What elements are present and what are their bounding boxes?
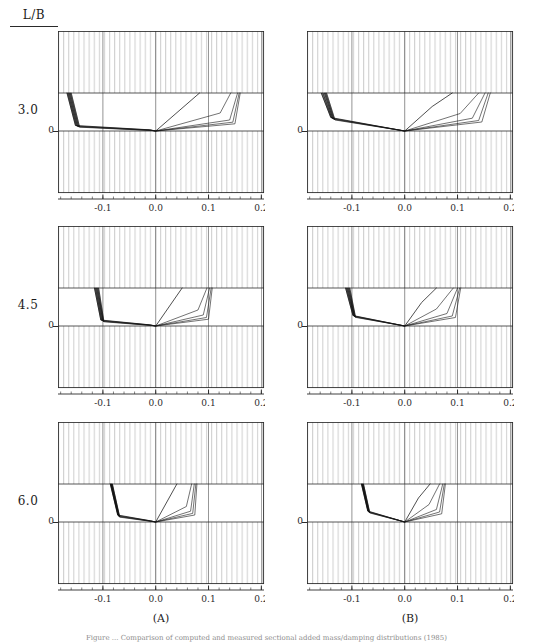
row-label-lb-4-5: 4.5 <box>2 298 54 312</box>
x-tick-label: 0.2 <box>254 398 265 408</box>
x-tick-label: 0.0 <box>398 398 413 408</box>
y-zero-tick <box>53 326 58 327</box>
x-tick-label: -0.1 <box>343 203 360 213</box>
x-tick-label: -0.1 <box>343 594 360 604</box>
y-zero-label: 0 <box>291 516 303 526</box>
curve-4 <box>98 288 212 326</box>
row-header-label: L/B <box>12 8 56 22</box>
y-zero-tick <box>302 326 307 327</box>
y-zero-tick <box>53 131 58 132</box>
x-tick-label: 0.1 <box>201 203 215 213</box>
x-tick-label: 0.2 <box>254 594 265 604</box>
curve-5 <box>350 288 461 326</box>
curve-4 <box>70 93 239 131</box>
x-tick-label: 0.2 <box>254 203 265 213</box>
curve-1 <box>321 93 452 131</box>
y-zero-label: 0 <box>42 516 54 526</box>
x-tick-label: -0.1 <box>94 594 111 604</box>
x-tick-label: -0.1 <box>94 398 111 408</box>
curve-4 <box>363 484 444 522</box>
row-header-rule <box>10 26 58 27</box>
column-caption-a: (A) <box>131 612 191 625</box>
plot-panel-a-6.0: -0.10.00.10.2 <box>58 422 265 608</box>
x-tick-label: 0.0 <box>149 203 164 213</box>
curve-3 <box>348 288 458 326</box>
curve-1 <box>67 93 200 131</box>
curve-2 <box>362 484 440 522</box>
plot-panel-b-3.0: -0.10.00.10.2 <box>307 31 514 217</box>
y-zero-label: 0 <box>291 125 303 135</box>
curve-4 <box>349 288 460 326</box>
row-label-lb-6-0: 6.0 <box>2 494 54 508</box>
x-tick-label: -0.1 <box>343 398 360 408</box>
plot-panel-b-6.0: -0.10.00.10.2 <box>307 422 514 608</box>
curve-5 <box>327 93 491 131</box>
y-zero-tick <box>53 522 58 523</box>
y-zero-tick <box>302 131 307 132</box>
x-tick-label: 0.0 <box>398 594 413 604</box>
x-tick-label: 0.1 <box>450 398 464 408</box>
x-tick-label: 0.0 <box>149 398 164 408</box>
x-tick-label: -0.1 <box>94 203 111 213</box>
x-tick-label: 0.1 <box>450 203 464 213</box>
curve-3 <box>97 288 210 326</box>
curve-3 <box>69 93 238 131</box>
row-label-lb-3-0: 3.0 <box>2 103 54 117</box>
x-tick-label: 0.1 <box>201 594 215 604</box>
x-tick-label: 0.2 <box>503 398 514 408</box>
x-tick-label: 0.2 <box>503 203 514 213</box>
plot-panel-a-3.0: -0.10.00.10.2 <box>58 31 265 217</box>
x-tick-label: 0.1 <box>450 594 464 604</box>
figure-caption: Figure ... Comparison of computed and me… <box>0 634 533 643</box>
curve-1 <box>346 288 437 326</box>
x-tick-label: 0.0 <box>398 203 413 213</box>
column-caption-b: (B) <box>380 612 440 625</box>
curve-4 <box>325 93 488 131</box>
x-tick-label: 0.0 <box>149 594 164 604</box>
y-zero-tick <box>302 522 307 523</box>
plot-panel-b-4.5: -0.10.00.10.2 <box>307 226 514 412</box>
plot-panel-a-4.5: -0.10.00.10.2 <box>58 226 265 412</box>
x-tick-label: 0.1 <box>201 398 215 408</box>
y-zero-label: 0 <box>42 320 54 330</box>
y-zero-label: 0 <box>291 320 303 330</box>
x-tick-label: 0.2 <box>503 594 514 604</box>
curve-1 <box>94 288 182 326</box>
y-zero-label: 0 <box>42 125 54 135</box>
